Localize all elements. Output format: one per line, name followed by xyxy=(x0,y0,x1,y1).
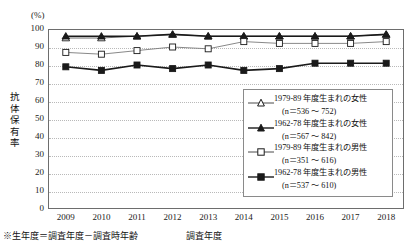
x-axis-tick-label: 2015 xyxy=(259,212,299,222)
x-axis-title: 調査年度 xyxy=(186,229,222,242)
legend-item[interactable]: 1979-89 年度生まれの男性 xyxy=(248,143,389,156)
data-point xyxy=(170,44,176,50)
y-axis-tick-label: 70 xyxy=(18,77,44,87)
data-point xyxy=(205,46,211,52)
x-axis-tick-label: 2016 xyxy=(295,212,335,222)
legend-item[interactable]: 1962-78 年度生まれの男性 xyxy=(248,168,389,181)
y-axis-tick-label: 80 xyxy=(18,59,44,69)
legend-item[interactable]: 1962-78 年度生まれの女性 xyxy=(248,119,389,132)
data-point xyxy=(241,67,247,73)
open-triangle-icon xyxy=(248,95,274,107)
legend-label: 1962-78 年度生まれの女性 xyxy=(274,119,367,130)
data-point xyxy=(312,40,318,46)
y-axis-tick-label: 10 xyxy=(18,185,44,195)
data-point xyxy=(383,39,389,45)
y-axis-tick-label: 90 xyxy=(18,41,44,51)
open-square-icon xyxy=(248,144,274,156)
data-point xyxy=(312,60,318,66)
data-point xyxy=(205,62,211,68)
y-axis-tick-label: 40 xyxy=(18,131,44,141)
data-point xyxy=(134,48,140,54)
y-axis-tick-label: 100 xyxy=(18,23,44,33)
x-axis-tick-label: 2014 xyxy=(224,212,264,222)
x-axis-tick-label: 2011 xyxy=(117,212,157,222)
data-point xyxy=(348,60,354,66)
data-point xyxy=(98,51,104,57)
series-open-square xyxy=(63,39,389,58)
x-axis-tick-label: 2009 xyxy=(46,212,86,222)
filled-square-icon xyxy=(248,169,274,181)
legend-label: 1979-89 年度生まれの男性 xyxy=(274,143,367,154)
y-axis-tick-label: 60 xyxy=(18,95,44,105)
y-axis-tick-label: 20 xyxy=(18,167,44,177)
x-axis-tick-label: 2013 xyxy=(188,212,228,222)
chart-footnote: ※生年度＝調査年度－調査時年齢 xyxy=(3,229,138,242)
chart-root: (%) 抗 体 保 有 率 10090807060504030201002009… xyxy=(0,0,418,247)
data-point xyxy=(63,64,69,70)
data-point xyxy=(98,67,104,73)
data-point xyxy=(63,49,69,55)
filled-triangle-icon xyxy=(248,120,274,132)
y-axis-tick-label: 50 xyxy=(18,113,44,123)
data-point xyxy=(276,66,282,72)
chart-legend: 1979-89 年度生まれの女性 (n＝536 ～ 752) 1962-78 年… xyxy=(243,89,393,197)
y-axis-tick-label: 30 xyxy=(18,149,44,159)
data-point xyxy=(348,40,354,46)
data-point xyxy=(134,62,140,68)
data-point xyxy=(276,40,282,46)
x-axis-tick-label: 2018 xyxy=(366,212,406,222)
data-point xyxy=(241,39,247,45)
y-axis-tick-label: 0 xyxy=(18,203,44,213)
data-point xyxy=(383,60,389,66)
y-axis-unit-label: (%) xyxy=(31,10,45,20)
legend-label: 1979-89 年度生まれの女性 xyxy=(274,94,367,105)
data-point xyxy=(170,66,176,72)
x-axis-tick-label: 2017 xyxy=(331,212,371,222)
x-axis-tick-label: 2012 xyxy=(153,212,193,222)
legend-item[interactable]: 1979-89 年度生まれの女性 xyxy=(248,94,389,107)
x-axis-tick-label: 2010 xyxy=(81,212,121,222)
series-filled-square xyxy=(63,60,389,73)
legend-label: 1962-78 年度生まれの男性 xyxy=(274,168,367,179)
